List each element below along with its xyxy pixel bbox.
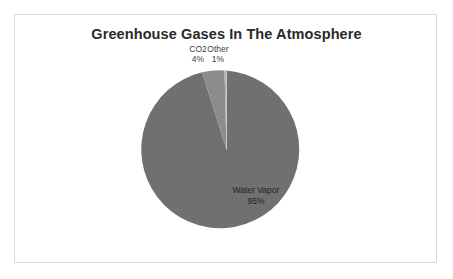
pie-label-other: Other 1%: [201, 44, 235, 64]
chart-frame: Greenhouse Gases In The Atmosphere CO2 4…: [14, 14, 437, 263]
pie-label-other-name: Other: [201, 44, 235, 54]
pie-label-water-vapor-percent: 95%: [201, 196, 311, 207]
pie-label-water-vapor-name: Water Vapor: [201, 185, 311, 196]
pie-chart-plot-area: CO2 4% Other 1% Water Vapor 95%: [15, 15, 438, 264]
pie-label-water-vapor: Water Vapor 95%: [201, 185, 311, 207]
pie-label-other-percent: 1%: [201, 54, 235, 64]
